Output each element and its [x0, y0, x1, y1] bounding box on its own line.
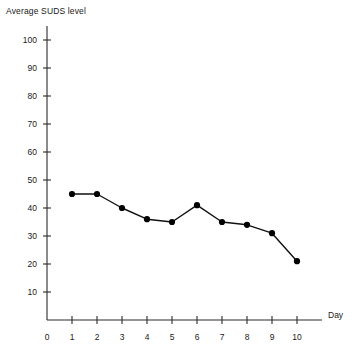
- x-tick-label: 7: [220, 332, 225, 342]
- plot-area: 102030405060708090100 012345678910: [0, 0, 358, 354]
- data-point: [219, 219, 225, 225]
- y-tick-label: 50: [28, 175, 38, 185]
- x-tick-label: 0: [45, 332, 50, 342]
- data-point: [94, 191, 100, 197]
- y-tick-label: 90: [28, 63, 38, 73]
- x-tick-label: 8: [245, 332, 250, 342]
- data-point: [144, 216, 150, 222]
- series-points: [69, 191, 300, 264]
- y-tick-label: 10: [28, 287, 38, 297]
- data-point: [169, 219, 175, 225]
- x-tick-label: 9: [270, 332, 275, 342]
- y-tick-label: 30: [28, 231, 38, 241]
- x-tick-label: 5: [170, 332, 175, 342]
- y-tick-label: 70: [28, 119, 38, 129]
- data-point: [294, 258, 300, 264]
- x-tick-label: 1: [70, 332, 75, 342]
- y-axis: 102030405060708090100: [23, 26, 51, 320]
- data-point: [69, 191, 75, 197]
- suds-line-chart: Average SUDS level Day 10203040506070809…: [0, 0, 358, 354]
- series-line: [72, 194, 297, 261]
- data-point: [269, 230, 275, 236]
- x-tick-label: 10: [292, 332, 302, 342]
- y-tick-label: 80: [28, 91, 38, 101]
- x-tick-label: 4: [145, 332, 150, 342]
- data-point: [244, 222, 250, 228]
- data-series: [69, 191, 300, 264]
- y-tick-label: 40: [28, 203, 38, 213]
- x-tick-label: 6: [195, 332, 200, 342]
- data-point: [119, 205, 125, 211]
- x-tick-label: 3: [120, 332, 125, 342]
- y-tick-label: 100: [23, 35, 37, 45]
- x-axis: 012345678910: [45, 316, 322, 342]
- y-tick-label: 20: [28, 259, 38, 269]
- x-tick-label: 2: [95, 332, 100, 342]
- data-point: [194, 202, 200, 208]
- y-tick-label: 60: [28, 147, 38, 157]
